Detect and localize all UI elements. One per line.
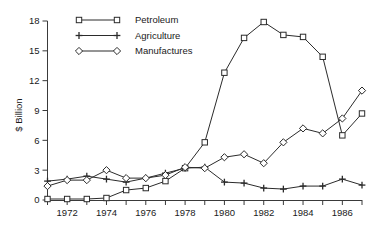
data-point-marker <box>260 185 267 192</box>
series-petroleum <box>45 19 365 201</box>
y-tick-label: 3 <box>34 165 39 176</box>
x-axis-tick-labels: 19721974197619781980198219841986 <box>57 207 353 218</box>
y-axis-tick-labels: 0369121518 <box>29 15 40 205</box>
legend-marker-square <box>114 17 119 22</box>
legend-label: Petroleum <box>135 14 178 25</box>
data-point-marker <box>201 165 208 172</box>
data-point-marker <box>281 32 286 37</box>
data-point-marker <box>241 35 246 40</box>
data-point-marker <box>143 185 148 190</box>
legend-marker-plus <box>76 32 83 39</box>
y-tick-label: 0 <box>34 194 39 205</box>
data-point-marker <box>359 182 366 189</box>
data-point-marker <box>123 187 128 192</box>
legend-label: Manufactures <box>135 45 193 56</box>
data-point-marker <box>299 125 306 132</box>
chart-legend: PetroleumAgricultureManufactures <box>75 14 192 56</box>
data-point-marker <box>300 34 305 39</box>
data-point-marker <box>103 176 110 183</box>
data-point-marker <box>241 180 248 187</box>
data-point-marker <box>44 182 51 189</box>
y-tick-label: 9 <box>34 105 39 116</box>
data-point-marker <box>104 195 109 200</box>
legend-marker-plus <box>114 32 121 39</box>
legend-marker-diamond <box>75 47 82 54</box>
legend-item-agriculture: Agriculture <box>76 30 181 41</box>
y-tick-label: 6 <box>34 135 39 146</box>
data-point-marker <box>83 177 90 184</box>
data-point-marker <box>123 175 130 182</box>
y-tick-label: 12 <box>29 75 40 86</box>
legend-marker-square <box>76 17 81 22</box>
data-point-marker <box>319 183 326 190</box>
x-tick-label: 1976 <box>135 207 156 218</box>
x-tick-label: 1978 <box>175 207 196 218</box>
y-tick-label: 15 <box>29 45 40 56</box>
data-point-marker <box>300 183 307 190</box>
x-tick-label: 1980 <box>214 207 235 218</box>
data-point-marker <box>280 186 287 193</box>
x-tick-label: 1984 <box>292 207 313 218</box>
data-point-marker <box>45 196 50 201</box>
data-point-marker <box>222 70 227 75</box>
x-tick-label: 1986 <box>332 207 353 218</box>
legend-item-petroleum: Petroleum <box>76 14 178 25</box>
data-point-marker <box>320 54 325 59</box>
legend-item-manufactures: Manufactures <box>75 45 192 56</box>
data-point-marker <box>84 196 89 201</box>
data-point-marker <box>221 154 228 161</box>
x-tick-label: 1972 <box>57 207 78 218</box>
data-point-marker <box>340 133 345 138</box>
data-point-marker <box>64 177 71 184</box>
data-point-marker <box>261 19 266 24</box>
data-point-marker <box>240 151 247 158</box>
axis-group <box>48 21 363 201</box>
series-group <box>44 19 366 201</box>
y-tick-label: 18 <box>29 15 40 26</box>
legend-label: Agriculture <box>135 30 180 41</box>
y-axis-title: $ Billion <box>13 98 24 131</box>
series-manufactures <box>44 87 366 190</box>
line-chart: 0369121518 19721974197619781980198219841… <box>0 0 377 247</box>
data-point-marker <box>339 176 346 183</box>
x-tick-label: 1974 <box>96 207 117 218</box>
data-point-marker <box>202 140 207 145</box>
y-axis-ticks <box>43 21 48 200</box>
data-point-marker <box>103 167 110 174</box>
data-point-marker <box>358 87 365 94</box>
data-point-marker <box>359 111 364 116</box>
chart-container: 0369121518 19721974197619781980198219841… <box>0 0 377 247</box>
data-point-marker <box>64 196 69 201</box>
data-point-marker <box>142 175 149 182</box>
x-tick-label: 1982 <box>253 207 274 218</box>
legend-marker-diamond <box>113 47 120 54</box>
